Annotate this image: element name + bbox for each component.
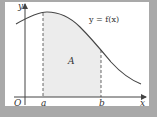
shaded-region-a [43,12,101,97]
y-axis-label: y [17,1,24,11]
curve-label: y = f(x) [88,15,119,24]
bound-label-b: b [99,98,105,108]
x-axis-label: x [140,98,145,108]
bound-label-a: a [41,98,46,108]
origin-label: O [14,98,22,108]
region-label: A [67,56,75,66]
area-diagram: y y = f(x) A O a b x [0,0,157,117]
